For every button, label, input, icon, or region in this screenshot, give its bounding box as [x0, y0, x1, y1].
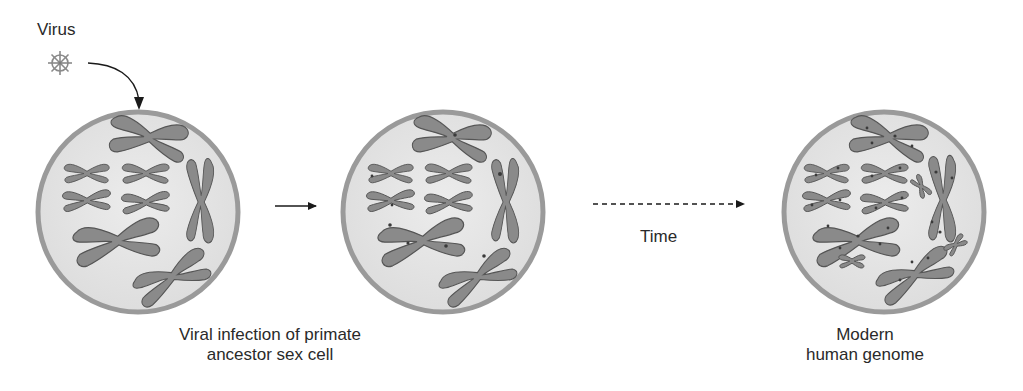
curved-arrow-head — [134, 97, 144, 110]
curved-arrow-icon — [88, 63, 139, 100]
caption-ancestor-line2: ancestor sex cell — [140, 345, 400, 365]
virus-icon — [48, 51, 72, 75]
cell-modern — [784, 112, 984, 312]
time-label: Time — [640, 227, 677, 247]
cell-infected — [343, 112, 543, 312]
caption-ancestor: Viral infection of primate ancestor sex … — [140, 325, 400, 365]
virus-label: Virus — [37, 20, 75, 40]
cell-ancestor — [38, 112, 238, 312]
caption-modern-line2: human genome — [790, 345, 940, 365]
caption-modern-line1: Modern — [790, 325, 940, 345]
caption-modern: Modern human genome — [790, 325, 940, 365]
caption-ancestor-line1: Viral infection of primate — [140, 325, 400, 345]
